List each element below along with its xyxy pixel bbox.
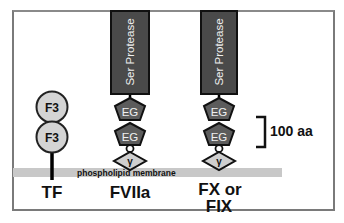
scale-bracket: 100 aa xyxy=(256,117,313,147)
svg-text:EG: EG xyxy=(211,131,228,143)
domain-gla-gamma: γ xyxy=(203,152,235,170)
domain-diagram: phospholipid membrane F3 F3 TF Ser Prote… xyxy=(0,0,344,223)
domain-f3-1: F3 xyxy=(37,92,68,123)
protein-label-tf: TF xyxy=(42,183,63,202)
domain-eg-1: EG xyxy=(115,98,145,120)
domain-eg-2: EG xyxy=(204,123,234,145)
domain-ser-protease: Ser Protease xyxy=(111,11,149,94)
protein-label-fviia: FVIIa xyxy=(110,183,151,202)
protein-label-fx-line2: FIX xyxy=(206,197,233,216)
domain-ser-protease: Ser Protease xyxy=(201,11,237,94)
domain-eg-1: EG xyxy=(204,98,234,120)
svg-text:γ: γ xyxy=(216,156,222,167)
svg-text:EG: EG xyxy=(211,106,228,118)
svg-text:F3: F3 xyxy=(45,131,59,145)
svg-text:EG: EG xyxy=(122,106,139,118)
svg-text:γ: γ xyxy=(127,156,133,167)
svg-text:EG: EG xyxy=(122,131,139,143)
protein-tf: F3 F3 TF xyxy=(37,92,68,203)
scale-label: 100 aa xyxy=(270,123,313,139)
protein-fx-or-fix: Ser Protease EG EG γ FX or FIX xyxy=(198,11,242,216)
domain-f3-2: F3 xyxy=(37,122,68,153)
domain-eg-2: EG xyxy=(115,123,145,145)
svg-text:Ser Protease: Ser Protease xyxy=(124,18,136,85)
svg-text:F3: F3 xyxy=(45,101,59,115)
svg-text:Ser Protease: Ser Protease xyxy=(213,18,225,85)
